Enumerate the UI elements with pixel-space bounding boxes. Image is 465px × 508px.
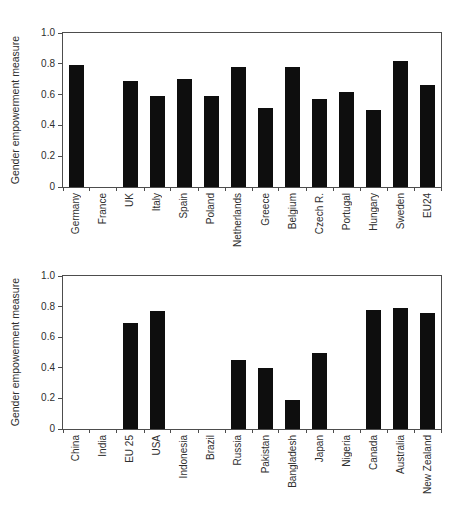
y-axis-title-world: Gender empowerment measure [8,275,22,430]
category-slot-japan [306,276,333,429]
category-slot-indonesia [171,276,198,429]
x-tick-label-australia: Australia [396,435,406,474]
x-tick-label-nigeria: Nigeria [342,435,352,467]
x-label-slot-pakistan: Pakistan [252,435,279,494]
y-tick-mark-0-6 [58,337,63,338]
category-slot-canada [360,276,387,429]
x-tick-label-brazil: Brazil [206,435,216,460]
x-tick-mark [387,429,388,433]
x-tick-label-usa: USA [152,435,162,456]
bar-usa [150,311,165,429]
x-label-slot-canada: Canada [361,435,388,494]
category-slot-russia [225,276,252,429]
bar-bangladesh [285,400,300,429]
x-tick-label-china: China [71,435,81,461]
y-tick-label-0: 0 [49,424,55,434]
x-tick-mark [89,429,90,433]
y-tick-label-0-8: 0.8 [41,302,55,312]
x-tick-mark [360,429,361,433]
x-label-slot-new-zealand: New Zealand [415,435,442,494]
bar-japan [312,353,327,430]
y-tick-mark-0-4 [58,367,63,368]
x-label-slot-nigeria: Nigeria [333,435,360,494]
x-tick-label-eu-25: EU 25 [125,435,135,463]
x-label-slot-indonesia: Indonesia [171,435,198,494]
x-tick-mark [278,429,279,433]
category-slot-eu-25 [117,276,144,429]
y-tick-label-0-4: 0.4 [41,363,55,373]
y-axis-title-text: Gender empowerment measure [10,278,21,426]
x-label-slot-australia: Australia [388,435,415,494]
bar-canada [366,310,381,429]
x-label-slot-usa: USA [143,435,170,494]
x-label-slot-india: India [89,435,116,494]
y-tick-label-0-6: 0.6 [41,332,55,342]
category-slot-usa [144,276,171,429]
x-tick-label-canada: Canada [369,435,379,470]
gender-empowerment-figure: Gender empowerment measure 00.20.40.60.8… [0,0,465,508]
x-tick-mark [306,429,307,433]
x-tick-mark [170,429,171,433]
y-tick-label-0-2: 0.2 [41,393,55,403]
y-tick-mark-1-0 [58,276,63,277]
x-label-slot-russia: Russia [225,435,252,494]
category-slot-australia [387,276,414,429]
bar-new-zealand [420,313,435,429]
bar-australia [393,308,408,429]
x-tick-mark [116,429,117,433]
x-tick-label-russia: Russia [233,435,243,466]
category-slot-brazil [198,276,225,429]
bars-world [63,276,441,429]
x-tick-label-new-zealand: New Zealand [423,435,433,494]
x-tick-mark [414,429,415,433]
x-tick-label-india: India [98,435,108,457]
x-label-slot-bangladesh: Bangladesh [279,435,306,494]
x-axis-labels-world: ChinaIndiaEU 25USAIndonesiaBrazilRussiaP… [62,435,442,494]
x-tick-mark [252,429,253,433]
y-tick-label-1-0: 1.0 [41,271,55,281]
x-tick-mark [63,429,64,433]
chart-world: Gender empowerment measure 00.20.40.60.8… [0,0,465,508]
category-slot-nigeria [333,276,360,429]
x-tick-label-japan: Japan [315,435,325,462]
plot-area-world: 00.20.40.60.81.0 [62,275,442,430]
category-slot-bangladesh [279,276,306,429]
bar-eu-25 [123,323,138,429]
x-label-slot-brazil: Brazil [198,435,225,494]
x-tick-mark [144,429,145,433]
y-tick-mark-0-2 [58,398,63,399]
x-tick-label-indonesia: Indonesia [179,435,189,478]
x-tick-mark [198,429,199,433]
x-tick-label-bangladesh: Bangladesh [288,435,298,488]
x-label-slot-eu-25: EU 25 [116,435,143,494]
bar-russia [231,360,246,429]
x-label-slot-japan: Japan [306,435,333,494]
x-tick-mark [441,429,442,433]
category-slot-pakistan [252,276,279,429]
x-tick-mark [333,429,334,433]
y-tick-mark-0-8 [58,306,63,307]
category-slot-india [90,276,117,429]
x-tick-label-pakistan: Pakistan [261,435,271,473]
x-label-slot-china: China [62,435,89,494]
x-tick-mark [225,429,226,433]
category-slot-china [63,276,90,429]
category-slot-new-zealand [414,276,441,429]
bar-pakistan [258,368,273,429]
